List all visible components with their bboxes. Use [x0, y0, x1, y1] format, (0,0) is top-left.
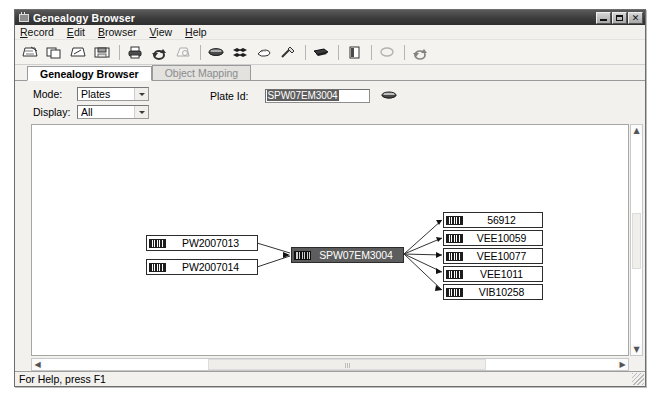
window-title: Genealogy Browser — [33, 12, 596, 24]
graph-node-child[interactable]: VEE10077 — [443, 248, 543, 264]
open-genealogy-icon[interactable] — [19, 42, 41, 62]
scroll-right-arrow-icon[interactable]: ▶ — [617, 359, 628, 370]
ellipse-icon — [376, 42, 398, 62]
node-label: 56912 — [465, 214, 542, 226]
multi-plate-icon[interactable] — [229, 42, 251, 62]
plate-node-icon — [446, 270, 463, 279]
resize-grip[interactable] — [632, 373, 644, 385]
scroll-down-arrow-icon[interactable]: ▼ — [631, 344, 642, 355]
horizontal-scroll-track[interactable] — [43, 359, 617, 370]
plate-node-icon — [294, 251, 311, 260]
tab-strip: Genealogy Browser Object Mapping — [15, 65, 645, 81]
menu-item-browser[interactable]: Browser — [98, 26, 144, 38]
menu-item-view[interactable]: View — [150, 26, 180, 38]
node-label: SPW07EM3004 — [313, 249, 403, 261]
graph-node-child[interactable]: VIB10258 — [443, 284, 543, 300]
plate-id-value: SPW07EM3004 — [267, 90, 339, 101]
mode-label: Mode: — [33, 88, 77, 100]
tab-genealogy-browser[interactable]: Genealogy Browser — [27, 66, 152, 81]
chevron-down-icon[interactable] — [134, 88, 148, 100]
chevron-down-icon[interactable] — [134, 106, 148, 118]
plate-id-input[interactable]: SPW07EM3004 — [265, 89, 370, 103]
node-label: PW2007013 — [168, 237, 257, 249]
scroll-left-arrow-icon[interactable]: ◀ — [32, 359, 43, 370]
recycle-icon[interactable] — [409, 42, 431, 62]
graph-node-child[interactable]: 56912 — [443, 212, 543, 228]
print-preview-icon — [172, 42, 194, 62]
filter-form: Mode: Plates Display: All Plate Id: SPW0… — [15, 81, 645, 126]
vertical-scrollbar[interactable]: ▲ ▼ — [630, 124, 643, 356]
toolbar-separator — [200, 45, 201, 60]
horizontal-scroll-thumb[interactable] — [208, 359, 486, 370]
pipette-icon[interactable] — [277, 42, 299, 62]
menu-item-edit[interactable]: Edit — [67, 26, 92, 38]
graph-node-parent[interactable]: PW2007014 — [146, 259, 258, 275]
application-window: Genealogy Browser ✕ Record Edit Browser … — [14, 9, 646, 387]
menu-item-record[interactable]: Record — [20, 26, 61, 38]
save-icon[interactable] — [91, 42, 113, 62]
node-label: VIB10258 — [465, 286, 542, 298]
toolbar-separator — [305, 45, 306, 60]
display-label: Display: — [33, 106, 77, 118]
close-button[interactable]: ✕ — [628, 12, 643, 24]
display-row: Display: All — [33, 105, 645, 119]
plate-node-icon — [149, 239, 166, 248]
minimize-button[interactable] — [596, 12, 611, 24]
status-bar: For Help, press F1 — [15, 371, 645, 386]
plate-icon[interactable] — [205, 42, 227, 62]
tray-icon[interactable] — [310, 42, 332, 62]
toolbar-separator — [404, 45, 405, 60]
toolbar-separator — [371, 45, 372, 60]
plate-window-icon — [18, 12, 29, 23]
node-label: VEE10077 — [465, 250, 542, 262]
genealogy-graph: PW2007013 PW2007014 SPW07EM3004 56912 VE… — [32, 125, 614, 355]
status-message: For Help, press F1 — [15, 373, 632, 385]
maximize-button[interactable] — [612, 12, 627, 24]
toolbar-separator — [338, 45, 339, 60]
mode-value: Plates — [81, 88, 134, 100]
plate-node-icon — [149, 263, 166, 272]
display-value: All — [81, 106, 134, 118]
graph-node-parent[interactable]: PW2007013 — [146, 235, 258, 251]
mode-select[interactable]: Plates — [77, 87, 149, 101]
graph-node-child[interactable]: VEE1011 — [443, 266, 543, 282]
new-record-icon[interactable] — [43, 42, 65, 62]
toolbar — [15, 40, 645, 65]
plate-browse-icon[interactable] — [380, 88, 398, 103]
plate-node-icon — [446, 216, 463, 225]
horizontal-scrollbar[interactable]: ◀ ▶ — [31, 358, 629, 371]
graph-node-focus[interactable]: SPW07EM3004 — [291, 247, 404, 263]
node-label: VEE1011 — [465, 268, 542, 280]
toolbar-separator — [119, 45, 120, 60]
node-label: PW2007014 — [168, 261, 257, 273]
genealogy-canvas[interactable]: PW2007013 PW2007014 SPW07EM3004 56912 VE… — [31, 124, 629, 356]
refresh-icon[interactable] — [148, 42, 170, 62]
window-controls: ✕ — [596, 12, 643, 24]
plate-node-icon — [446, 288, 463, 297]
node-label: VEE10059 — [465, 232, 542, 244]
title-bar[interactable]: Genealogy Browser ✕ — [15, 10, 645, 25]
plate-id-group: Plate Id: SPW07EM3004 — [210, 88, 398, 103]
tab-object-mapping[interactable]: Object Mapping — [152, 65, 252, 80]
glove-icon[interactable] — [253, 42, 275, 62]
plate-node-icon — [446, 234, 463, 243]
scroll-up-arrow-icon[interactable]: ▲ — [631, 125, 642, 136]
print-icon[interactable] — [124, 42, 146, 62]
plate-node-icon — [446, 252, 463, 261]
menu-item-help[interactable]: Help — [185, 26, 214, 38]
document-icon[interactable] — [343, 42, 365, 62]
menu-bar: Record Edit Browser View Help — [15, 25, 645, 40]
graph-node-child[interactable]: VEE10059 — [443, 230, 543, 246]
display-select[interactable]: All — [77, 105, 149, 119]
open-record-icon[interactable] — [67, 42, 89, 62]
vertical-scroll-thumb[interactable] — [632, 213, 641, 269]
plate-id-label: Plate Id: — [210, 90, 249, 102]
